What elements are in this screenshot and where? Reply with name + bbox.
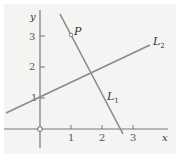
x-tick-label-1: 1 (68, 132, 74, 143)
coordinate-plane: 1 2 3 1 2 3 x y P L1 L2 (0, 0, 179, 155)
line-l2-label: L2 (152, 35, 165, 50)
y-tick-label-2: 2 (29, 61, 35, 72)
origin-marker (38, 127, 43, 132)
point-p-label: P (73, 25, 82, 38)
line-l1-label-main: L (106, 90, 114, 103)
y-axis-label: y (29, 11, 36, 22)
y-tick-label-3: 3 (29, 31, 35, 42)
line-l2-label-sub: 2 (160, 42, 164, 50)
point-p-marker (69, 33, 73, 37)
x-tick-label-2: 2 (99, 132, 105, 143)
line-l2 (6, 45, 150, 113)
line-l1-label-sub: 1 (114, 97, 118, 105)
x-axis-label: x (162, 132, 168, 143)
line-l2-label-main: L (152, 35, 160, 48)
line-l1-label: L1 (106, 90, 119, 105)
x-tick-label-3: 3 (130, 132, 136, 143)
line-l1 (60, 14, 123, 134)
